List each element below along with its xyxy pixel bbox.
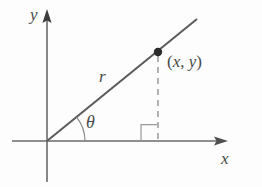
angle-arc [77,117,86,141]
radius-label: r [99,68,106,85]
terminal-ray [47,19,197,141]
point-coordinates-label: (x, y) [167,53,202,70]
x-axis-label: x [221,150,229,167]
terminal-point-marker [154,48,162,56]
y-axis-label: y [30,6,38,23]
angle-theta-label: θ [86,113,95,131]
close-paren: ) [196,52,202,71]
polar-coordinates-figure: y x r θ (x, y) [0,0,262,187]
coordinate-comma: , [180,52,189,71]
right-angle-marker [141,125,157,141]
